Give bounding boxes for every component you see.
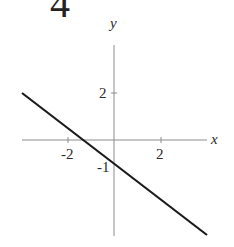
x-tick-label-2: 2 — [156, 147, 164, 162]
line-plot — [0, 0, 234, 247]
x-tick-label-neg2: -2 — [61, 147, 74, 162]
y-intercept-label: -1 — [97, 160, 110, 175]
y-axis-label: y — [110, 16, 117, 31]
y-tick-label-2: 2 — [99, 86, 107, 101]
x-axis-label: x — [211, 132, 218, 147]
